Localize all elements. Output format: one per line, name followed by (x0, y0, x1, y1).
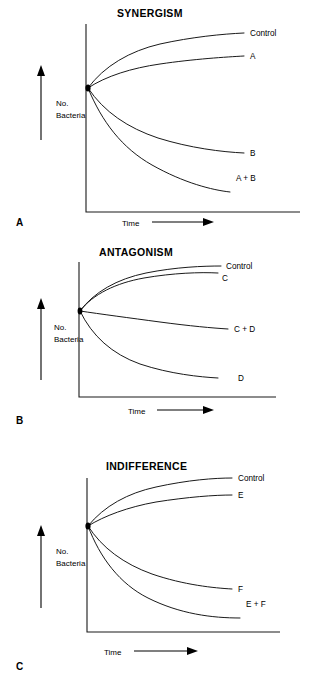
y-axis-arrow-head-icon (37, 525, 45, 536)
panel-antagonism: No. Bacteria ANTAGONISM Control C C + D … (0, 230, 313, 442)
origin-point-c (85, 522, 90, 529)
panel-title-a: SYNERGISM (117, 7, 183, 19)
panel-title-b: ANTAGONISM (99, 246, 173, 258)
curve-label-c-b: C (222, 274, 228, 283)
curve-c-b (80, 273, 218, 311)
y-axis-label-line2: Bacteria (56, 559, 86, 568)
x-axis-arrow-group-b (157, 406, 214, 414)
curve-label-a-plus-b-a: A + B (236, 174, 256, 183)
x-axis-arrow-head-icon (203, 406, 214, 414)
x-axis-arrow-group-a (152, 218, 214, 226)
panel-a-chart: No. Bacteria SYNERGISM Control A B A + B… (0, 0, 313, 230)
curve-label-control-a: Control (250, 29, 277, 38)
x-axis-label-b: Time (128, 407, 146, 416)
curve-a-a (88, 56, 244, 88)
panel-letter-b: B (16, 415, 23, 426)
x-axis-arrow-head-icon (187, 647, 198, 655)
panel-b-chart: No. Bacteria ANTAGONISM Control C C + D … (0, 230, 313, 442)
curve-e-c (88, 495, 232, 526)
curve-control-c (88, 478, 232, 526)
curve-label-a-a: A (250, 52, 256, 61)
y-axis-label-line1: No. (56, 547, 68, 556)
x-axis-label-a: Time (122, 219, 140, 228)
curve-label-e-c: E (238, 491, 244, 500)
y-axis-arrow-head-icon (37, 298, 45, 309)
curve-c-plus-d-b (80, 311, 228, 329)
curve-d-b (80, 311, 218, 378)
panel-synergism: No. Bacteria SYNERGISM Control A B A + B… (0, 0, 313, 230)
x-axis-arrow-group-c (134, 647, 198, 655)
curve-b-a (88, 88, 244, 153)
panel-title-c: INDIFFERENCE (106, 460, 187, 472)
curve-control-a (88, 33, 244, 88)
figure-root: No. Bacteria SYNERGISM Control A B A + B… (0, 0, 313, 677)
x-axis-label-c: Time (104, 648, 122, 657)
curve-f-c (88, 526, 232, 589)
curve-label-f-c: F (238, 585, 243, 594)
x-axis-arrow-head-icon (203, 218, 214, 226)
origin-point-b (78, 308, 83, 315)
curve-label-control-b: Control (226, 262, 253, 271)
curve-label-d-b: D (238, 374, 244, 383)
y-axis-label-line1: No. (56, 99, 68, 108)
curve-e-plus-f-c (88, 526, 240, 618)
y-axis-label-line2: Bacteria (56, 111, 86, 120)
curve-label-control-c: Control (238, 474, 265, 483)
y-axis-arrow-group-a (37, 65, 45, 140)
y-axis-arrow-group-c (37, 525, 45, 608)
y-axis-arrow-group-b (37, 298, 45, 380)
panel-indifference: No. Bacteria INDIFFERENCE Control E F E … (0, 442, 313, 677)
curve-a-plus-b-a (88, 88, 230, 192)
y-axis-arrow-head-icon (37, 65, 45, 76)
curve-label-e-plus-f-c: E + F (246, 600, 266, 609)
origin-point-a (85, 84, 90, 91)
y-axis-label-line1: No. (54, 323, 66, 332)
curve-label-b-a: B (250, 149, 256, 158)
panel-letter-c: C (16, 661, 23, 672)
panel-c-chart: No. Bacteria INDIFFERENCE Control E F E … (0, 442, 313, 677)
curve-label-c-plus-d-b: C + D (234, 325, 255, 334)
